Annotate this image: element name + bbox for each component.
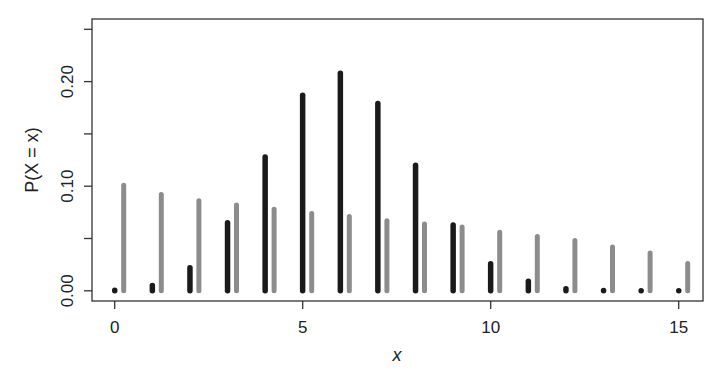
- bar-gray-5: [309, 211, 314, 293]
- bar-gray-11: [535, 234, 540, 293]
- bar-black-14: [638, 288, 644, 294]
- bar-black-3: [225, 220, 231, 294]
- bar-gray-13: [610, 244, 615, 293]
- bar-gray-6: [347, 214, 352, 293]
- bar-gray-14: [648, 251, 653, 294]
- bar-black-15: [676, 288, 682, 294]
- bar-black-12: [563, 286, 569, 294]
- bar-black-10: [488, 261, 494, 294]
- bar-gray-3: [234, 203, 239, 294]
- bar-black-7: [375, 101, 381, 294]
- bar-black-6: [338, 71, 344, 294]
- bar-gray-10: [497, 230, 502, 294]
- y-tick-label: 0.20: [58, 65, 77, 98]
- bar-black-0: [112, 288, 118, 294]
- bar-gray-4: [272, 207, 277, 294]
- y-axis: 0.000.100.20: [58, 29, 92, 307]
- x-tick-label: 15: [669, 318, 688, 337]
- bar-black-5: [300, 92, 306, 293]
- x-tick-label: 0: [110, 318, 119, 337]
- bar-gray-15: [685, 261, 690, 293]
- bars-layer: [112, 71, 690, 294]
- bar-gray-2: [196, 198, 201, 293]
- chart-canvas: 0.000.100.20 051015 x P(X = x): [0, 0, 726, 385]
- y-tick-label: 0.00: [58, 274, 77, 307]
- y-axis-label: P(X = x): [22, 127, 42, 193]
- bar-gray-9: [460, 225, 465, 294]
- x-tick-label: 10: [481, 318, 500, 337]
- bar-gray-7: [384, 218, 389, 293]
- bar-black-13: [601, 288, 607, 294]
- bar-gray-0: [121, 183, 126, 294]
- bar-black-1: [150, 283, 156, 294]
- bar-black-11: [526, 279, 532, 294]
- bar-black-4: [262, 154, 268, 293]
- bar-gray-1: [159, 192, 164, 293]
- x-axis: 051015: [110, 301, 688, 337]
- y-tick-label: 0.10: [58, 170, 77, 203]
- x-tick-label: 5: [298, 318, 307, 337]
- bar-black-2: [187, 265, 193, 294]
- bar-gray-12: [572, 238, 577, 293]
- bar-black-8: [413, 163, 419, 294]
- x-axis-label: x: [392, 345, 403, 365]
- bar-gray-8: [422, 221, 427, 293]
- bar-black-9: [450, 222, 456, 293]
